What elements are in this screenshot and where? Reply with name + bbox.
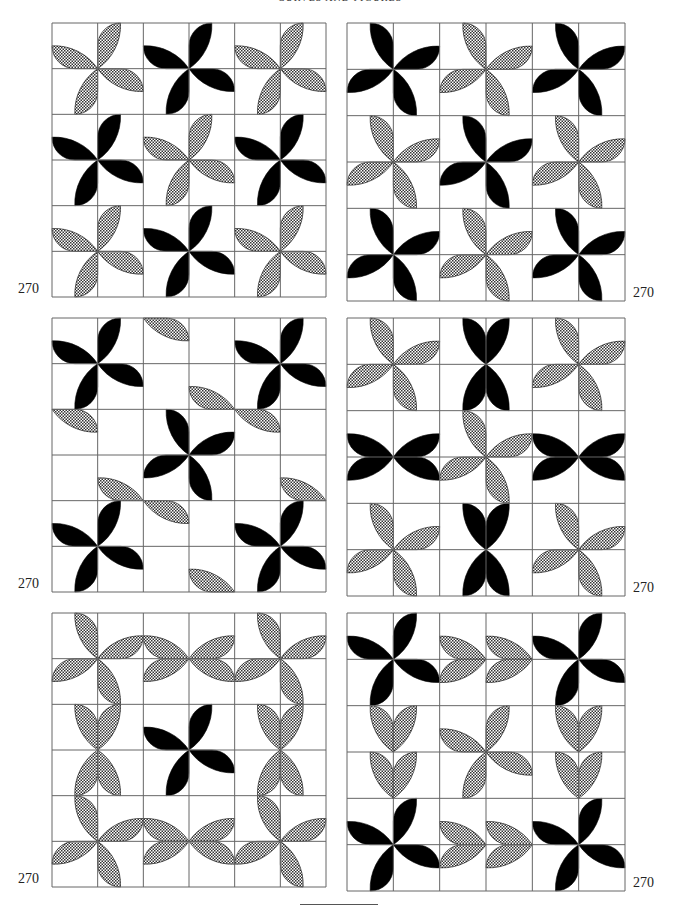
black-blade-shape <box>347 69 393 92</box>
black-blade-shape <box>555 659 578 705</box>
hatched-blade-shape <box>440 69 486 92</box>
hatched-blade-shape <box>486 821 532 844</box>
figure-number-label: 270 <box>18 281 39 297</box>
hatched-blade-shape <box>440 255 486 278</box>
black-blade-shape <box>370 208 393 254</box>
hatched-blade-shape <box>555 706 578 752</box>
black-blade-shape <box>532 434 578 457</box>
black-blade-shape <box>463 116 486 162</box>
hatched-blade-shape <box>143 636 189 659</box>
hatched-blade-shape <box>393 752 416 798</box>
hatched-blade-shape <box>280 636 326 659</box>
black-blade-shape <box>532 255 578 278</box>
black-blade-shape <box>75 160 98 206</box>
figure-number-label: 270 <box>633 285 654 301</box>
hatched-blade-shape <box>235 659 281 682</box>
hatched-blade-shape <box>440 845 486 868</box>
hatched-blade-shape <box>486 46 532 69</box>
hatched-blade-shape <box>579 706 602 752</box>
figure-number-label: 270 <box>18 576 39 592</box>
black-blade-shape <box>143 727 189 750</box>
hatched-blade-shape <box>370 706 393 752</box>
hatched-blade-shape <box>257 69 280 115</box>
black-blade-shape <box>98 501 121 547</box>
hatched-blade-shape <box>370 116 393 162</box>
hatched-blade-shape <box>189 160 235 183</box>
black-blade-shape <box>486 364 509 410</box>
hatched-blade-shape <box>555 503 578 549</box>
black-blade-shape <box>52 137 98 160</box>
pattern-panel-6 <box>347 613 625 891</box>
black-blade-shape <box>486 162 509 208</box>
hatched-blade-shape <box>440 659 486 682</box>
hatched-blade-shape <box>463 411 486 457</box>
hatched-blade-shape <box>579 550 602 596</box>
hatched-blade-shape <box>463 752 486 798</box>
hatched-blade-shape <box>143 841 189 864</box>
black-blade-shape <box>347 434 393 457</box>
black-blade-shape <box>166 69 189 115</box>
hatched-blade-shape <box>280 23 303 69</box>
black-blade-shape <box>257 546 280 592</box>
figure-number-label: 270 <box>633 580 654 596</box>
hatched-blade-shape <box>486 659 532 682</box>
black-blade-shape <box>393 434 439 457</box>
hatched-blade-shape <box>98 750 121 796</box>
hatched-blade-shape <box>98 251 144 274</box>
hatched-blade-shape <box>486 845 532 868</box>
black-blade-shape <box>579 613 602 659</box>
hatched-blade-shape <box>463 23 486 69</box>
black-blade-shape <box>579 434 625 457</box>
hatched-blade-shape <box>98 704 121 750</box>
figure-number-label: 270 <box>18 871 39 887</box>
hatched-blade-shape <box>257 750 280 796</box>
hatched-blade-shape <box>143 818 189 841</box>
hatched-blade-shape <box>235 228 281 251</box>
black-blade-shape <box>486 318 509 364</box>
hatched-blade-shape <box>189 386 235 409</box>
black-blade-shape <box>235 341 281 364</box>
black-blade-shape <box>189 704 212 750</box>
black-blade-shape <box>555 208 578 254</box>
hatched-blade-shape <box>579 526 625 549</box>
black-blade-shape <box>532 821 578 844</box>
black-blade-shape <box>440 162 486 185</box>
black-blade-shape <box>532 457 578 480</box>
black-blade-shape <box>189 750 235 773</box>
hatched-blade-shape <box>280 206 303 252</box>
black-blade-shape <box>532 636 578 659</box>
hatched-blade-shape <box>52 228 98 251</box>
black-blade-shape <box>579 255 602 301</box>
hatched-blade-shape <box>75 750 98 796</box>
black-blade-shape <box>463 364 486 410</box>
hatched-blade-shape <box>98 818 144 841</box>
black-blade-shape <box>555 23 578 69</box>
black-blade-shape <box>579 845 625 868</box>
black-blade-shape <box>98 364 144 387</box>
hatched-blade-shape <box>370 752 393 798</box>
black-blade-shape <box>189 455 212 501</box>
hatched-blade-shape <box>370 503 393 549</box>
hatched-blade-shape <box>486 434 532 457</box>
hatched-blade-shape <box>555 318 578 364</box>
hatched-blade-shape <box>280 478 326 501</box>
hatched-blade-shape <box>98 478 144 501</box>
black-blade-shape <box>75 364 98 410</box>
black-blade-shape <box>579 69 602 115</box>
black-blade-shape <box>280 501 303 547</box>
hatched-blade-shape <box>486 706 509 752</box>
black-blade-shape <box>347 255 393 278</box>
hatched-blade-shape <box>257 251 280 297</box>
hatched-blade-shape <box>75 613 98 659</box>
pattern-panel-3 <box>52 318 326 592</box>
hatched-blade-shape <box>98 206 121 252</box>
hatched-blade-shape <box>98 841 121 887</box>
black-blade-shape <box>370 659 393 705</box>
black-blade-shape <box>52 341 98 364</box>
hatched-blade-shape <box>280 818 326 841</box>
hatched-blade-shape <box>189 636 235 659</box>
black-blade-shape <box>532 69 578 92</box>
hatched-blade-shape <box>189 659 235 682</box>
black-blade-shape <box>52 523 98 546</box>
black-blade-shape <box>166 409 189 455</box>
